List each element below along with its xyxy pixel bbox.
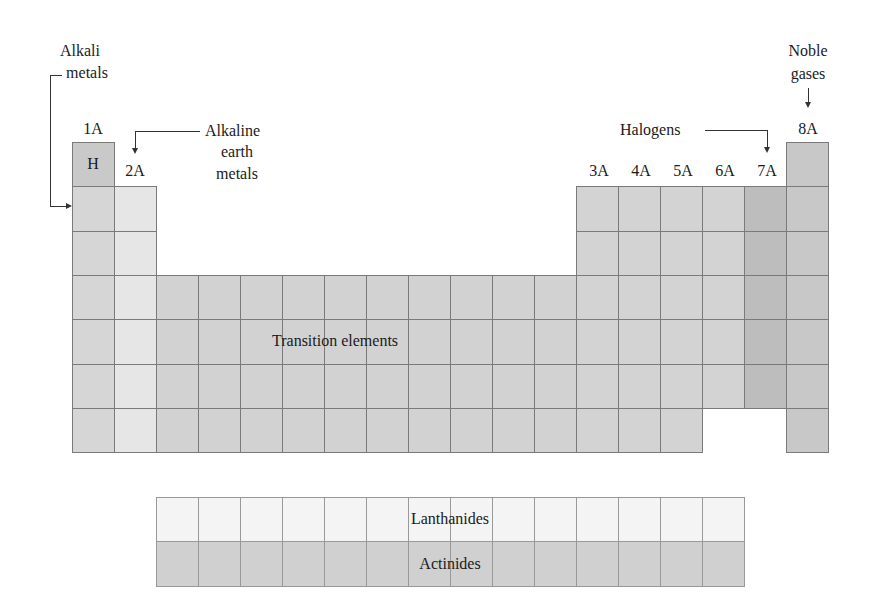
group-label-4A: 4A [620,162,662,180]
element-cell [324,408,367,453]
element-cell [198,319,241,365]
element-cell [114,275,157,320]
element-cell [744,231,787,276]
element-cell [72,275,115,320]
element-cell [702,275,745,320]
element-cell [114,408,157,453]
element-cell [240,364,283,409]
element-cell [114,186,157,232]
element-cell [282,275,325,320]
element-cell [534,319,577,365]
element-cell [576,319,619,365]
alkali-label-line1: Alkali [55,42,105,60]
element-cell [618,275,661,320]
element-cell [618,319,661,365]
element-cell [450,275,493,320]
transition-elements-label: Transition elements [272,332,398,350]
element-cell [72,408,115,453]
element-cell [114,364,157,409]
actinides-label: Actinides [156,555,744,573]
element-cell [660,231,703,276]
group-label-6A: 6A [704,162,746,180]
element-cell [156,275,199,320]
element-cell [366,364,409,409]
alkaline-earth-label-line1: Alkaline [205,122,260,140]
element-cell [786,275,829,320]
element-cell [450,408,493,453]
element-cell [324,364,367,409]
element-cell [702,231,745,276]
element-cell [786,142,829,187]
element-cell [366,408,409,453]
hydrogen-symbol: H [72,155,114,173]
element-cell [240,275,283,320]
group-label-1A: 1A [72,120,114,138]
alkali-label-line2: metals [62,64,112,82]
element-cell [492,319,535,365]
element-cell [492,408,535,453]
element-cell [786,408,829,453]
group-label-3A: 3A [578,162,620,180]
element-cell [408,364,451,409]
noble-gases-label-line2: gases [782,65,834,83]
element-cell [408,275,451,320]
group-label-7A: 7A [746,162,788,180]
element-cell [72,319,115,365]
lanthanides-label: Lanthanides [156,510,744,528]
element-cell [156,319,199,365]
element-cell [492,364,535,409]
group-label-5A: 5A [662,162,704,180]
element-cell [618,231,661,276]
element-cell [198,275,241,320]
element-cell [660,319,703,365]
element-cell [324,275,367,320]
element-cell [576,186,619,232]
element-cell [576,231,619,276]
element-cell [618,186,661,232]
element-cell [72,186,115,232]
element-cell [786,186,829,232]
element-cell [198,364,241,409]
element-cell [450,319,493,365]
element-cell [618,364,661,409]
element-cell [660,186,703,232]
element-cell [744,364,787,409]
element-cell [534,408,577,453]
element-cell [450,364,493,409]
element-cell [240,408,283,453]
element-cell [72,364,115,409]
element-cell [786,364,829,409]
element-cell [198,408,241,453]
element-cell [366,275,409,320]
element-cell [576,275,619,320]
element-cell [156,364,199,409]
element-cell [282,408,325,453]
halogens-label: Halogens [620,121,680,139]
element-cell [534,275,577,320]
element-cell [660,408,703,453]
element-cell [702,364,745,409]
element-cell [492,275,535,320]
element-cell [618,408,661,453]
alkaline-earth-label-line2: earth [205,143,269,161]
element-cell [660,364,703,409]
element-cell [156,408,199,453]
element-cell [408,319,451,365]
group-label-2A: 2A [114,162,156,180]
element-cell [408,408,451,453]
element-cell [114,319,157,365]
element-cell [786,231,829,276]
element-cell [576,364,619,409]
element-cell [576,408,619,453]
element-cell [114,231,157,276]
element-cell [282,364,325,409]
alkaline-earth-label-line3: metals [205,165,269,183]
group-label-8A: 8A [787,120,829,138]
element-cell [744,319,787,365]
element-cell [660,275,703,320]
element-cell [702,186,745,232]
element-cell [72,231,115,276]
element-cell [744,186,787,232]
element-cell [534,364,577,409]
element-cell [702,319,745,365]
